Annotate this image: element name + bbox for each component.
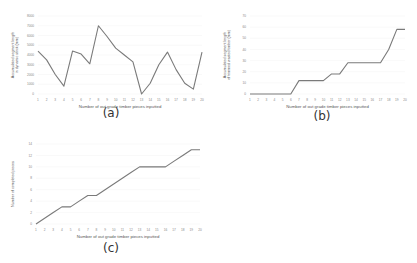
y-tick-label: 40 (242, 48, 246, 52)
x-tick-label: 17 (174, 98, 178, 102)
x-tick-label: 6 (80, 98, 82, 102)
x-tick-label: 12 (131, 98, 135, 102)
x-tick-label: 14 (146, 228, 150, 232)
x-axis-title: Number of out grade timber pieces inputt… (77, 234, 160, 239)
y-tick-label: 6000 (27, 34, 34, 38)
y-axis: 010203040506070 (242, 14, 405, 96)
y-axis-title: Accumulated segment length (11, 32, 15, 78)
x-tick-label: 2 (44, 228, 46, 232)
x-tick-label: 17 (172, 228, 176, 232)
chart-panel-a: 0100020003000400050006000700080001234567… (0, 0, 210, 110)
y-tick-label: 4 (30, 199, 32, 203)
data-series-line (250, 29, 405, 94)
x-tick-label: 3 (265, 98, 267, 102)
x-tick-label: 14 (148, 98, 152, 102)
y-tick-label: 0 (32, 92, 34, 96)
y-tick-label: 6 (30, 188, 32, 192)
x-tick-label: 15 (362, 98, 366, 102)
x-tick-label: 19 (395, 98, 399, 102)
y-axis-title: of trimmed wasted timber (mm) (227, 30, 231, 80)
x-tick-label: 10 (322, 98, 326, 102)
y-tick-label: 10 (28, 165, 32, 169)
y-tick-label: 5000 (27, 43, 34, 47)
y-tick-label: 50 (242, 36, 246, 40)
x-tick-label: 5 (72, 98, 74, 102)
x-tick-label: 9 (104, 228, 106, 232)
x-tick-label: 6 (78, 228, 80, 232)
y-tick-label: 7000 (27, 24, 34, 28)
x-tick-label: 13 (346, 98, 350, 102)
x-axis: 1234567891011121314151617181920 (249, 98, 407, 102)
x-tick-label: 18 (181, 228, 185, 232)
line-chart-c: 0246810121412345678910111213141516171819… (0, 130, 210, 240)
x-tick-label: 8 (98, 98, 100, 102)
panel-label-a: (a) (96, 106, 126, 120)
x-tick-label: 5 (282, 98, 284, 102)
data-series-line (36, 150, 200, 224)
x-tick-label: 8 (306, 98, 308, 102)
x-tick-label: 20 (200, 98, 204, 102)
x-tick-label: 15 (155, 228, 159, 232)
x-tick-label: 13 (138, 228, 142, 232)
chart-panel-c: 0246810121412345678910111213141516171819… (0, 130, 210, 240)
y-axis-title: Accumulated segment length (223, 32, 227, 78)
x-tick-label: 19 (190, 228, 194, 232)
y-tick-label: 70 (242, 14, 246, 18)
x-tick-label: 11 (330, 98, 334, 102)
x-tick-label: 15 (157, 98, 161, 102)
y-tick-label: 14 (28, 142, 32, 146)
x-axis: 1234567891011121314151617181920 (35, 228, 202, 232)
x-tick-label: 4 (61, 228, 63, 232)
x-tick-label: 7 (298, 98, 300, 102)
y-tick-label: 20 (242, 70, 246, 74)
y-axis-title: in dynamic stock (mm) (15, 37, 19, 73)
x-tick-label: 19 (192, 98, 196, 102)
y-tick-label: 30 (242, 59, 246, 63)
line-chart-b: 0102030405060701234567891011121314151617… (210, 0, 417, 110)
y-tick-label: 2 (30, 211, 32, 215)
x-tick-label: 6 (290, 98, 292, 102)
line-chart-a: 0100020003000400050006000700080001234567… (0, 0, 210, 110)
x-tick-label: 3 (52, 228, 54, 232)
x-tick-label: 9 (106, 98, 108, 102)
y-tick-label: 10 (242, 81, 246, 85)
y-axis: 010002000300040005000600070008000 (27, 14, 202, 96)
y-tick-label: 3000 (27, 63, 34, 67)
y-tick-label: 0 (244, 92, 246, 96)
x-tick-label: 12 (338, 98, 342, 102)
x-tick-label: 2 (46, 98, 48, 102)
x-tick-label: 7 (87, 228, 89, 232)
x-tick-label: 17 (379, 98, 383, 102)
x-tick-label: 13 (140, 98, 144, 102)
y-axis-title: Number of completed pieces (11, 161, 15, 207)
y-tick-label: 8 (30, 176, 32, 180)
x-tick-label: 2 (257, 98, 259, 102)
x-tick-label: 18 (387, 98, 391, 102)
x-tick-label: 14 (354, 98, 358, 102)
y-tick-label: 4000 (27, 53, 34, 57)
x-tick-label: 4 (274, 98, 276, 102)
x-tick-label: 4 (63, 98, 65, 102)
x-tick-label: 12 (129, 228, 133, 232)
y-tick-label: 0 (30, 222, 32, 226)
x-tick-label: 18 (183, 98, 187, 102)
x-tick-label: 16 (371, 98, 375, 102)
x-tick-label: 10 (112, 228, 116, 232)
x-tick-label: 10 (114, 98, 118, 102)
x-tick-label: 20 (403, 98, 407, 102)
x-tick-label: 1 (37, 98, 39, 102)
chart-panel-b: 0102030405060701234567891011121314151617… (210, 0, 417, 110)
y-tick-label: 8000 (27, 14, 34, 18)
x-tick-label: 3 (54, 98, 56, 102)
panel-label-c: (c) (96, 241, 126, 255)
x-tick-label: 8 (96, 228, 98, 232)
data-series-line (38, 26, 202, 94)
x-tick-label: 16 (164, 228, 168, 232)
x-tick-label: 9 (314, 98, 316, 102)
x-axis: 1234567891011121314151617181920 (37, 98, 204, 102)
x-tick-label: 7 (89, 98, 91, 102)
x-tick-label: 20 (198, 228, 202, 232)
y-tick-label: 60 (242, 25, 246, 29)
y-tick-label: 2000 (27, 73, 34, 77)
y-tick-label: 1000 (27, 82, 34, 86)
